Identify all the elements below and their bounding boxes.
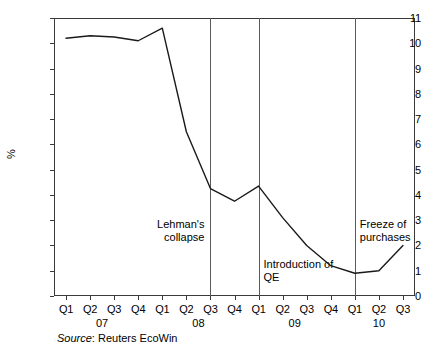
y-tick-label-3: 3 xyxy=(415,215,421,226)
y-tick-mark-0 xyxy=(50,296,54,297)
x-tick-mark-13 xyxy=(379,296,380,300)
x-tick-label-Q2-09: Q2 xyxy=(275,303,289,315)
x-tick-mark-4 xyxy=(162,296,163,300)
y-tick-label-6: 6 xyxy=(415,139,421,150)
x-tick-mark-11 xyxy=(331,296,332,300)
year-label-07: 07 xyxy=(96,317,108,329)
x-tick-mark-8 xyxy=(259,296,260,300)
x-tick-mark-0 xyxy=(66,296,67,300)
x-tick-label-Q3-10: Q3 xyxy=(396,303,410,315)
x-tick-label-Q3-09: Q3 xyxy=(300,303,314,315)
x-tick-mark-2 xyxy=(114,296,115,300)
chart-figure: % 01234567891011 Q1Q2Q3Q4Q1Q2Q3Q4Q1Q2Q3Q… xyxy=(0,0,430,357)
y-tick-mark-8 xyxy=(50,94,54,95)
y-tick-mark-11 xyxy=(50,18,54,19)
year-label-08: 08 xyxy=(192,317,204,329)
y-tick-mark-9 xyxy=(50,69,54,70)
source-text: : Reuters EcoWin xyxy=(92,332,178,344)
y-tick-label-10: 10 xyxy=(409,38,421,49)
y-tick-label-11: 11 xyxy=(410,13,421,24)
x-tick-label-Q2-07: Q2 xyxy=(83,303,97,315)
annotation-1: Introduction of QE xyxy=(264,258,334,284)
y-tick-label-2: 2 xyxy=(415,240,421,251)
y-tick-label-7: 7 xyxy=(415,114,421,125)
x-tick-label-Q4-07: Q4 xyxy=(131,303,145,315)
x-tick-mark-9 xyxy=(283,296,284,300)
y-tick-mark-10 xyxy=(50,43,54,44)
x-tick-mark-1 xyxy=(90,296,91,300)
source-label: Source xyxy=(57,332,92,344)
x-tick-mark-3 xyxy=(138,296,139,300)
y-tick-label-5: 5 xyxy=(415,164,421,175)
y-tick-label-1: 1 xyxy=(415,265,421,276)
annotation-2: Freeze of purchases xyxy=(360,218,411,244)
x-tick-label-Q1-08: Q1 xyxy=(155,303,169,315)
y-tick-mark-2 xyxy=(50,245,54,246)
event-line-2 xyxy=(355,18,356,296)
y-axis-title: % xyxy=(5,149,17,159)
x-tick-mark-14 xyxy=(403,296,404,300)
year-label-10: 10 xyxy=(373,317,385,329)
x-tick-label-Q1-07: Q1 xyxy=(59,303,73,315)
y-tick-mark-4 xyxy=(50,195,54,196)
x-tick-label-Q1-09: Q1 xyxy=(251,303,265,315)
x-tick-label-Q4-08: Q4 xyxy=(227,303,241,315)
x-tick-mark-12 xyxy=(355,296,356,300)
y-tick-label-4: 4 xyxy=(415,189,421,200)
y-tick-mark-7 xyxy=(50,119,54,120)
source-note: Source: Reuters EcoWin xyxy=(57,332,177,345)
y-tick-mark-3 xyxy=(50,220,54,221)
x-tick-mark-10 xyxy=(307,296,308,300)
x-tick-mark-5 xyxy=(186,296,187,300)
x-tick-label-Q2-08: Q2 xyxy=(179,303,193,315)
y-tick-label-0: 0 xyxy=(415,291,421,302)
y-tick-mark-6 xyxy=(50,144,54,145)
y-tick-label-8: 8 xyxy=(415,88,421,99)
y-tick-label-9: 9 xyxy=(415,63,421,74)
y-tick-mark-1 xyxy=(50,271,54,272)
x-tick-mark-7 xyxy=(235,296,236,300)
year-label-09: 09 xyxy=(289,317,301,329)
y-tick-mark-5 xyxy=(50,170,54,171)
event-line-1 xyxy=(259,18,260,296)
x-tick-label-Q3-07: Q3 xyxy=(107,303,121,315)
x-tick-label-Q2-10: Q2 xyxy=(372,303,386,315)
plot-area xyxy=(54,18,415,296)
x-tick-label-Q4-09: Q4 xyxy=(324,303,338,315)
event-line-0 xyxy=(210,18,211,296)
annotation-0: Lehman's collapse xyxy=(157,218,204,244)
x-tick-label-Q1-10: Q1 xyxy=(348,303,362,315)
x-tick-mark-6 xyxy=(210,296,211,300)
x-tick-label-Q3-08: Q3 xyxy=(203,303,217,315)
